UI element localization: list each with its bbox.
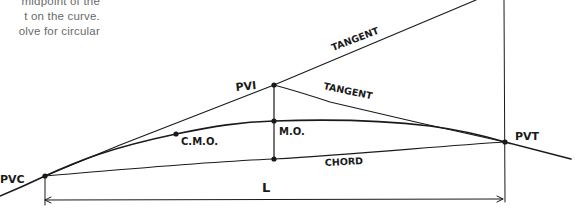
pvi-point	[271, 82, 276, 87]
pvt-vertical-line	[504, 0, 505, 202]
pvc-label: PVC	[0, 173, 25, 186]
outgoing-grade-line	[505, 142, 571, 159]
tangent-upper-label: TANGENT	[330, 25, 381, 53]
pvc-point	[42, 173, 47, 178]
diagram-drawing: PVC PVI PVT M.O. C.M.O. TANGENT TANGENT …	[0, 0, 576, 210]
chord-label: CHORD	[325, 155, 364, 168]
length-dimension-line	[45, 199, 503, 200]
pvi-label: PVI	[235, 79, 257, 94]
tangent-lower-label: TANGENT	[323, 80, 374, 101]
mo-label: M.O.	[279, 126, 305, 137]
chord-mid-point	[271, 156, 276, 161]
pvt-label: PVT	[515, 130, 540, 143]
mo-point	[271, 118, 276, 123]
length-label: L	[262, 180, 270, 195]
cmo-label: C.M.O.	[181, 136, 218, 147]
vertical-curve-diagram: midpoint of the t on the curve. olve for…	[0, 0, 576, 210]
back-tangent-line	[45, 0, 476, 176]
pvt-point	[502, 139, 507, 144]
cmo-point	[173, 131, 178, 136]
